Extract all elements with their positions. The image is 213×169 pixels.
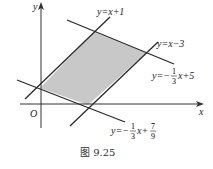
frac-numerator: 1 (131, 122, 135, 131)
label-y-neg-third-x-plus-7-9: y=− 1 3 x+ 7 9 (110, 122, 156, 141)
label-y-x-plus-1: y=x+1 (96, 6, 124, 17)
label-y-x-minus-3: y=x−3 (156, 38, 184, 49)
label-y-neg-third-x-plus-5: y=− 1 3 x+5 (151, 67, 194, 86)
frac2-denominator: 9 (151, 132, 155, 141)
svg-text:x+5: x+5 (177, 70, 194, 81)
x-axis-label: x (198, 106, 204, 117)
frac-denominator: 3 (131, 132, 135, 141)
frac2-numerator: 7 (151, 122, 155, 131)
y-axis-label: y (32, 1, 38, 12)
svg-text:y=−: y=− (110, 125, 129, 136)
figure-caption: 图 9.25 (80, 147, 115, 158)
svg-text:x+: x+ (136, 125, 148, 136)
frac-numerator: 1 (172, 67, 176, 76)
figure-canvas: y x O y=x+1 y=x−3 y=− 1 3 x+5 y=− 1 3 x+… (0, 0, 213, 169)
svg-text:y=−: y=− (151, 70, 170, 81)
origin-label: O (30, 108, 37, 119)
frac-denominator: 3 (172, 77, 176, 86)
